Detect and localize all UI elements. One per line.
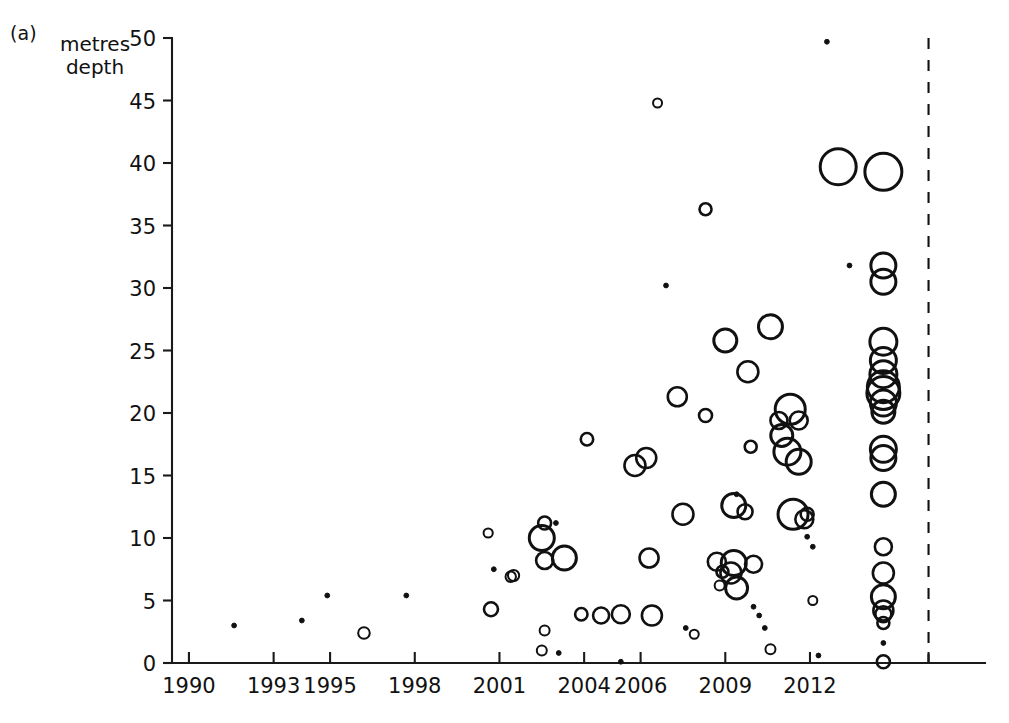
data-point-bubble [642, 606, 662, 626]
scatter-plot: 05101520253035404550 1990199319951998200… [0, 0, 1009, 723]
data-point-bubble [618, 659, 623, 664]
x-tick-label: 1995 [303, 674, 356, 698]
y-tick-label: 25 [129, 340, 156, 364]
data-point-bubble [552, 546, 576, 570]
data-point-bubble [871, 269, 896, 294]
data-point-bubble [786, 449, 811, 474]
data-point-bubble [299, 618, 304, 623]
data-point-bubble [820, 149, 856, 185]
data-point-bubble [593, 608, 609, 624]
data-point-bubble [825, 39, 830, 44]
data-point-bubble [640, 549, 659, 568]
y-tick-label: 5 [143, 590, 156, 614]
data-point-bubble [683, 626, 688, 631]
data-point-bubble [816, 653, 821, 658]
data-point-bubble [484, 602, 498, 616]
y-tick-label: 40 [129, 152, 156, 176]
axes-group [172, 38, 985, 663]
y-tick-label: 20 [129, 402, 156, 426]
data-point-bubble [778, 499, 808, 529]
data-point-bubble [758, 315, 782, 339]
data-point-bubble [325, 593, 330, 598]
data-point-bubble [699, 409, 712, 422]
data-point-bubble [554, 521, 559, 526]
data-point-bubble [810, 544, 815, 549]
data-point-bubble [491, 567, 496, 572]
data-point-bubble [575, 608, 587, 620]
data-point-bubble [358, 627, 370, 639]
data-point-bubble [737, 361, 758, 382]
data-point-bubble [653, 99, 662, 108]
axis-spine [172, 38, 985, 663]
y-tick-label: 0 [143, 652, 156, 676]
data-point-bubble [690, 630, 699, 639]
data-points-group [232, 39, 902, 668]
data-point-bubble [847, 263, 852, 268]
x-tick-label: 2001 [473, 674, 526, 698]
data-point-bubble [762, 626, 767, 631]
y-tick-label: 30 [129, 277, 156, 301]
data-point-bubble [404, 593, 409, 598]
data-point-bubble [668, 387, 687, 406]
data-point-bubble [540, 626, 550, 636]
x-tick-label: 1990 [162, 674, 215, 698]
data-point-bubble [871, 482, 895, 506]
data-point-bubble [877, 655, 890, 668]
data-point-bubble [805, 534, 810, 539]
x-tick-label: 1993 [247, 674, 300, 698]
x-tick-label: 1998 [388, 674, 441, 698]
data-point-bubble [612, 605, 630, 623]
data-point-bubble [664, 283, 669, 288]
data-point-bubble [672, 504, 693, 525]
data-point-bubble [714, 329, 737, 352]
data-point-bubble [865, 153, 902, 190]
data-point-bubble [875, 538, 892, 555]
y-tick-label: 15 [129, 465, 156, 489]
x-tick-label: 2006 [614, 674, 667, 698]
x-tick-labels: 199019931995199820012004200620092012 [162, 652, 836, 698]
x-tick-label: 2004 [557, 674, 610, 698]
y-tick-label: 35 [129, 215, 156, 239]
data-point-bubble [751, 604, 756, 609]
data-point-bubble [537, 646, 547, 656]
data-point-bubble [556, 651, 561, 656]
data-point-bubble [808, 596, 817, 605]
data-point-bubble [538, 517, 551, 530]
data-point-bubble [881, 641, 886, 646]
data-point-bubble [536, 552, 553, 569]
y-tick-label: 50 [129, 27, 156, 51]
y-tick-label: 10 [129, 527, 156, 551]
x-tick-label: 2012 [783, 674, 836, 698]
data-point-bubble [715, 581, 725, 591]
data-point-bubble [700, 203, 712, 215]
y-tick-labels: 05101520253035404550 [129, 27, 172, 676]
figure-panel: (a) metres depth 05101520253035404550 19… [0, 0, 1009, 723]
y-tick-label: 45 [129, 90, 156, 114]
data-point-bubble [745, 441, 757, 453]
data-point-bubble [765, 644, 775, 654]
data-point-bubble [484, 528, 493, 537]
data-point-bubble [757, 613, 762, 618]
data-point-bubble [873, 563, 894, 584]
data-point-bubble [581, 433, 593, 445]
data-point-bubble [232, 623, 237, 628]
x-tick-label: 2009 [699, 674, 752, 698]
